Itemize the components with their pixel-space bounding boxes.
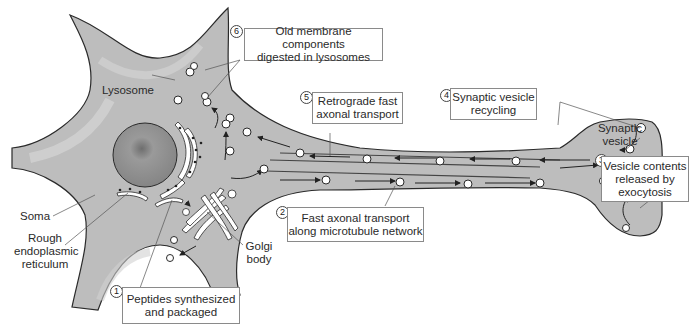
label-golgi-body: Golgi body xyxy=(244,240,274,266)
label-synaptic-vesicle-line2: vesicle xyxy=(590,135,650,148)
step-1-line1: Peptides synthesized xyxy=(123,293,239,306)
step-4-line2: recycling xyxy=(451,104,536,117)
step-4-line1: Synaptic vesicle xyxy=(451,91,536,104)
step-2-line1: Fast axonal transport xyxy=(288,212,423,225)
step-2-box: Fast axonal transport along microtubule … xyxy=(287,207,424,242)
step-1-box: Peptides synthesized and packaged xyxy=(122,287,240,324)
label-rough-er-line3: reticulum xyxy=(14,258,76,271)
label-golgi-line2: body xyxy=(244,253,274,266)
label-synaptic-vesicle: Synaptic vesicle xyxy=(590,122,650,148)
step-3-line3: exocytosis xyxy=(602,186,688,199)
step-4-box: Synaptic vesicle recycling xyxy=(450,88,537,120)
step-3-box: Vesicle contents released by exocytosis xyxy=(601,156,689,202)
step-1-line2: and packaged xyxy=(123,306,239,319)
label-soma: Soma xyxy=(20,210,50,223)
step-6-number: 6 xyxy=(230,25,243,38)
step-6-line2: digested in lysosomes xyxy=(245,51,382,64)
step-5-box: Retrograde fast axonal transport xyxy=(312,92,403,124)
step-3-line1: Vesicle contents xyxy=(602,160,688,173)
label-rough-er: Rough endoplasmic reticulum xyxy=(14,232,76,271)
step-5-line2: axonal transport xyxy=(313,108,402,121)
label-synaptic-vesicle-line1: Synaptic xyxy=(590,122,650,135)
label-golgi-line1: Golgi xyxy=(244,240,274,253)
label-lysosome: Lysosome xyxy=(102,84,154,97)
step-6-line1: Old membrane components xyxy=(245,25,382,51)
step-2-line2: along microtubule network xyxy=(288,225,423,238)
step-5-line1: Retrograde fast xyxy=(313,95,402,108)
label-rough-er-line1: Rough xyxy=(14,232,76,245)
step-6-box: Old membrane components digested in lyso… xyxy=(244,28,383,61)
step-3-line2: released by xyxy=(602,173,688,186)
label-rough-er-line2: endoplasmic xyxy=(14,245,76,258)
nucleus xyxy=(113,123,177,187)
